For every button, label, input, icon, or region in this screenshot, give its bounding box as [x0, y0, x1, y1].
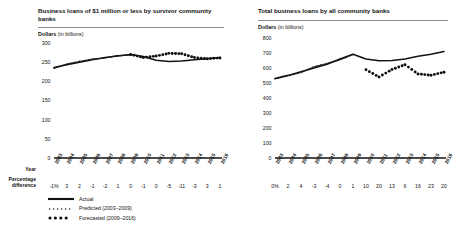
legend-solid-line-icon [48, 197, 74, 201]
legend-item-predicted: Predicted (2003–2009) [48, 205, 218, 213]
y-axis-caption-strong: Dollars [38, 31, 56, 37]
plot-svg-left: 300250200150100500 [38, 39, 224, 162]
y-axis-tick-label: 150 [42, 97, 51, 103]
percentage-difference-value: 23 [428, 183, 434, 189]
y-axis-tick-label: 0 [269, 155, 272, 161]
title-divider-left [38, 27, 224, 28]
x-axis-labels-left: 2003200420052006200720082009201020112012… [38, 162, 224, 184]
percentage-difference-value: 3 [65, 183, 68, 189]
percentage-difference-value: -1 [141, 183, 146, 189]
y-axis-tick-label: 500 [263, 80, 272, 86]
percentage-difference-value: -3 [312, 183, 317, 189]
chart-panel-left: Business loans of $1 million or less by … [4, 0, 226, 225]
x-axis-labels-right: 2003200420052006200720082009201020112012… [258, 162, 448, 184]
y-axis-tick-label: 100 [42, 117, 51, 123]
plot-area-left: 300250200150100500 [38, 39, 224, 162]
percentage-difference-value: 3 [206, 183, 209, 189]
y-axis-tick-label: 250 [42, 59, 51, 65]
chart-panel-right: Total business loans by all community ba… [228, 0, 450, 225]
y-axis-tick-label: 300 [42, 40, 51, 46]
percentage-difference-value: 13 [389, 183, 395, 189]
percentage-difference-value: 0 [129, 183, 132, 189]
y-axis-caption-strong: Dollars [258, 24, 276, 30]
y-axis-tick-label: 100 [263, 140, 272, 146]
y-axis-caption-right: Dollars (in billions) [258, 24, 304, 30]
percentage-difference-value: 20 [376, 183, 382, 189]
percentage-difference-value: -1% [49, 183, 58, 189]
y-axis-caption-light: (in billions) [278, 24, 304, 30]
y-axis-tick-label: 700 [263, 50, 272, 56]
percentage-difference-value: 20 [441, 183, 447, 189]
y-axis-tick-label: 800 [263, 35, 272, 41]
percentage-difference-value: 1 [116, 183, 119, 189]
series-forecasted-dots [365, 63, 446, 78]
percentage-difference-value: -4 [325, 183, 330, 189]
percentage-difference-value: 0 [339, 183, 342, 189]
chart-title-left: Business loans of $1 million or less by … [38, 7, 224, 23]
percentage-difference-value: 2 [287, 183, 290, 189]
percentage-difference-value: 0 [155, 183, 158, 189]
row-label-year-left: Year [6, 166, 36, 172]
y-axis-tick-label: 200 [42, 78, 51, 84]
percentage-difference-value: 2 [78, 183, 81, 189]
percentage-difference-row-left: -1%32-1-210-10-5-11-331 [38, 183, 224, 192]
chart-title-right: Total business loans by all community ba… [258, 7, 448, 15]
percentage-difference-value: 16 [415, 183, 421, 189]
percentage-difference-value: 4 [300, 183, 303, 189]
legend-fine-dots-icon [48, 207, 74, 211]
percentage-difference-value: 6 [404, 183, 407, 189]
plot-area-right: 8007006005004003002001000 [258, 32, 448, 162]
y-axis-tick-label: 0 [48, 155, 51, 161]
y-axis-caption-light: (in billions) [58, 31, 84, 37]
percentage-difference-value: -2 [103, 183, 108, 189]
percentage-difference-value: -5 [167, 183, 172, 189]
percentage-difference-row-right: 0%24-3-4011020136162320 [258, 183, 448, 192]
legend-label-forecasted: Forecasted (2009–2016) [79, 215, 136, 221]
legend-item-actual: Actual [48, 195, 218, 203]
percentage-difference-value: 0% [271, 183, 279, 189]
y-axis-tick-label: 200 [263, 125, 272, 131]
title-divider-right [258, 20, 448, 21]
legend-item-forecasted: Forecasted (2009–2016) [48, 214, 218, 222]
chart-legend: Actual Predicted (2003–2009) [48, 195, 218, 224]
legend-label-predicted: Predicted (2003–2009) [79, 205, 132, 211]
y-axis-tick-label: 50 [45, 136, 51, 142]
percentage-difference-value: 10 [363, 183, 369, 189]
percentage-difference-value: 1 [352, 183, 355, 189]
y-axis-caption-left: Dollars (in billions) [38, 31, 84, 37]
percentage-difference-value: -1 [90, 183, 95, 189]
legend-bold-dots-icon [48, 216, 74, 220]
percentage-difference-value: 1 [219, 183, 222, 189]
y-axis-tick-label: 300 [263, 110, 272, 116]
percentage-difference-value: -3 [192, 183, 197, 189]
legend-label-actual: Actual [79, 196, 93, 202]
y-axis-tick-label: 600 [263, 65, 272, 71]
row-label-percentage-left: Percentage difference [4, 176, 36, 189]
y-axis-tick-label: 400 [263, 95, 272, 101]
percentage-difference-value: -11 [178, 183, 185, 189]
plot-svg-right: 8007006005004003002001000 [258, 32, 448, 162]
